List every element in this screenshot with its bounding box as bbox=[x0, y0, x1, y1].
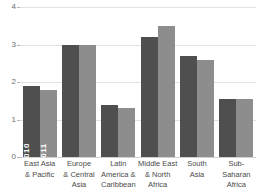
category-label-line: America & bbox=[99, 170, 138, 181]
category-label-line: Latin bbox=[99, 159, 138, 170]
category-label: Europe& CentralAsia bbox=[59, 159, 98, 191]
category-label-line: East Asia bbox=[20, 159, 59, 170]
category-label-line: Middle East bbox=[138, 159, 177, 170]
category-label-line: & Pacific bbox=[20, 170, 59, 181]
category-label-line: & Central bbox=[59, 170, 98, 181]
category-label-line: Africa bbox=[138, 180, 177, 191]
category-label: Middle East& NorthAfrica bbox=[138, 159, 177, 191]
category-label-line: Europe bbox=[59, 159, 98, 170]
category-label-line: & North bbox=[138, 170, 177, 181]
category-label-line: Caribbean bbox=[99, 180, 138, 191]
category-label-line: Africa bbox=[217, 180, 256, 191]
bar-chart: 4 3 2 1 0 20102011 East Asia& PacificEur… bbox=[0, 0, 260, 193]
category-label: LatinAmerica &Caribbean bbox=[99, 159, 138, 191]
category-label: Sub-SaharanAfrica bbox=[217, 159, 256, 191]
category-label: East Asia& Pacific bbox=[20, 159, 59, 191]
category-labels: East Asia& PacificEurope& CentralAsiaLat… bbox=[0, 0, 260, 193]
category-label-line: Sub-Saharan bbox=[217, 159, 256, 180]
category-label-line: South bbox=[177, 159, 216, 170]
category-label-line: Asia bbox=[59, 180, 98, 191]
category-label: SouthAsia bbox=[177, 159, 216, 191]
category-label-line: Asia bbox=[177, 170, 216, 181]
